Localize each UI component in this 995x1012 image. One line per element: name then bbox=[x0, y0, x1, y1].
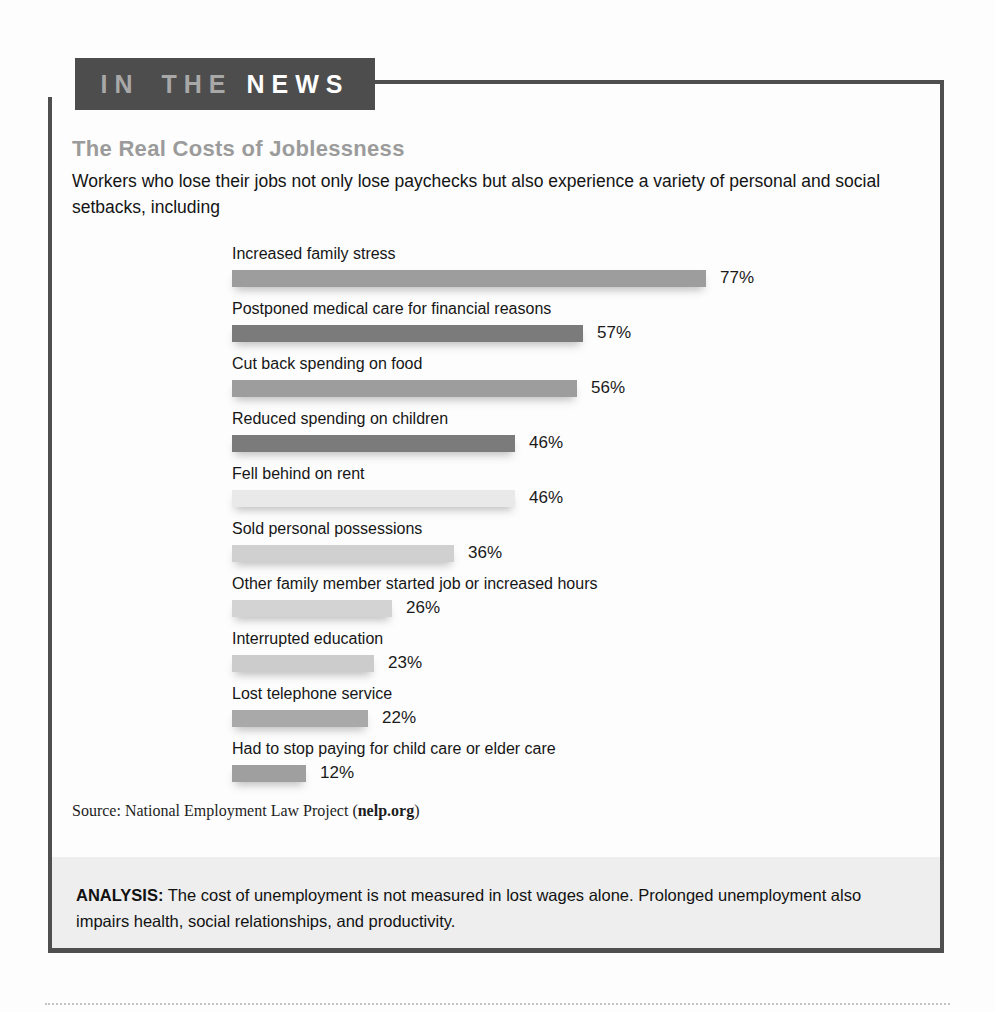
analysis-label: ANALYSIS: bbox=[76, 886, 163, 904]
frame-left-border bbox=[48, 97, 52, 953]
bar-category-label: Lost telephone service bbox=[232, 685, 754, 703]
chart-row: Reduced spending on children46% bbox=[232, 410, 754, 457]
bar-category-label: Increased family stress bbox=[232, 245, 754, 263]
scanned-textbook-page: IN THE NEWS The Real Costs of Joblessnes… bbox=[0, 0, 995, 1012]
bar-category-label: Sold personal possessions bbox=[232, 520, 754, 538]
bar-value-label: 46% bbox=[529, 433, 563, 453]
frame-top-border bbox=[368, 80, 944, 84]
bar-category-label: Had to stop paying for child care or eld… bbox=[232, 740, 754, 758]
chart-row: Interrupted education23% bbox=[232, 630, 754, 677]
bar bbox=[232, 490, 515, 507]
source-suffix: ) bbox=[414, 802, 419, 819]
bar bbox=[232, 655, 374, 672]
chart-row: Fell behind on rent46% bbox=[232, 465, 754, 512]
in-the-news-badge: IN THE NEWS bbox=[75, 58, 375, 110]
bar-category-label: Other family member started job or incre… bbox=[232, 575, 754, 593]
bar-value-label: 46% bbox=[529, 488, 563, 508]
bar-line: 77% bbox=[232, 268, 754, 288]
bar bbox=[232, 600, 392, 617]
bar-category-label: Reduced spending on children bbox=[232, 410, 754, 428]
bar-line: 46% bbox=[232, 433, 754, 453]
bar bbox=[232, 765, 306, 782]
bar-value-label: 36% bbox=[468, 543, 502, 563]
bar-value-label: 22% bbox=[382, 708, 416, 728]
source-line: Source: National Employment Law Project … bbox=[72, 802, 419, 820]
article-intro: Workers who lose their jobs not only los… bbox=[72, 168, 904, 221]
chart-row: Cut back spending on food56% bbox=[232, 355, 754, 402]
frame-bottom-border bbox=[48, 948, 944, 953]
frame-right-border bbox=[940, 80, 944, 953]
bar-line: 57% bbox=[232, 323, 754, 343]
bar-line: 56% bbox=[232, 378, 754, 398]
bar-category-label: Fell behind on rent bbox=[232, 465, 754, 483]
bar bbox=[232, 435, 515, 452]
bar-line: 23% bbox=[232, 653, 754, 673]
chart-row: Other family member started job or incre… bbox=[232, 575, 754, 622]
bar-category-label: Interrupted education bbox=[232, 630, 754, 648]
article-title: The Real Costs of Joblessness bbox=[72, 136, 405, 162]
bar-category-label: Cut back spending on food bbox=[232, 355, 754, 373]
analysis-box: ANALYSIS: The cost of unemployment is no… bbox=[52, 857, 940, 948]
bar-line: 22% bbox=[232, 708, 754, 728]
bar-value-label: 26% bbox=[406, 598, 440, 618]
bar-category-label: Postponed medical care for financial rea… bbox=[232, 300, 754, 318]
source-prefix: Source: National Employment Law Project … bbox=[72, 802, 358, 819]
bar-chart: Increased family stress77%Postponed medi… bbox=[232, 245, 754, 787]
bar-value-label: 77% bbox=[720, 268, 754, 288]
bar bbox=[232, 380, 577, 397]
bar-line: 36% bbox=[232, 543, 754, 563]
bar-value-label: 12% bbox=[320, 763, 354, 783]
chart-row: Had to stop paying for child care or eld… bbox=[232, 740, 754, 787]
chart-row: Lost telephone service22% bbox=[232, 685, 754, 732]
bar-value-label: 23% bbox=[388, 653, 422, 673]
bar-value-label: 57% bbox=[597, 323, 631, 343]
bar-line: 46% bbox=[232, 488, 754, 508]
badge-text-news: NEWS bbox=[246, 70, 349, 99]
chart-row: Increased family stress77% bbox=[232, 245, 754, 292]
analysis-text: ANALYSIS: The cost of unemployment is no… bbox=[76, 883, 896, 934]
chart-row: Sold personal possessions36% bbox=[232, 520, 754, 567]
badge-text-in-the: IN THE bbox=[101, 70, 233, 99]
bar bbox=[232, 325, 583, 342]
analysis-body: The cost of unemployment is not measured… bbox=[76, 886, 861, 930]
bar-value-label: 56% bbox=[591, 378, 625, 398]
source-org-url: nelp.org bbox=[358, 802, 414, 819]
bar bbox=[232, 545, 454, 562]
bar bbox=[232, 270, 706, 287]
chart-row: Postponed medical care for financial rea… bbox=[232, 300, 754, 347]
bar-line: 12% bbox=[232, 763, 754, 783]
bar bbox=[232, 710, 368, 727]
page-bottom-dotted-rule bbox=[45, 1003, 950, 1005]
bar-line: 26% bbox=[232, 598, 754, 618]
